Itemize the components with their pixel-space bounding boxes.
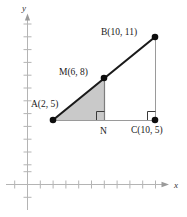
x-axis-label: x <box>173 180 178 190</box>
point-label-N: N <box>100 126 107 136</box>
point-label-M: M(6, 8) <box>59 67 88 78</box>
point-label-B: B(10, 11) <box>101 27 137 38</box>
point-dot-M <box>101 75 108 82</box>
y-axis-label: y <box>21 3 26 13</box>
point-dot-A <box>50 117 57 124</box>
coordinate-figure: y x A(2, 5) M(6, 8) B(10, 11) C(10, 5) N <box>0 0 187 217</box>
coordinate-plane-svg: y x A(2, 5) M(6, 8) B(10, 11) C(10, 5) N <box>0 0 187 217</box>
point-dot-C <box>152 117 159 124</box>
point-dot-B <box>152 34 159 41</box>
y-axis-arrow-icon <box>25 14 30 21</box>
x-axis-arrow-icon <box>162 182 170 187</box>
point-label-C: C(10, 5) <box>131 125 163 136</box>
point-label-A: A(2, 5) <box>31 99 58 110</box>
